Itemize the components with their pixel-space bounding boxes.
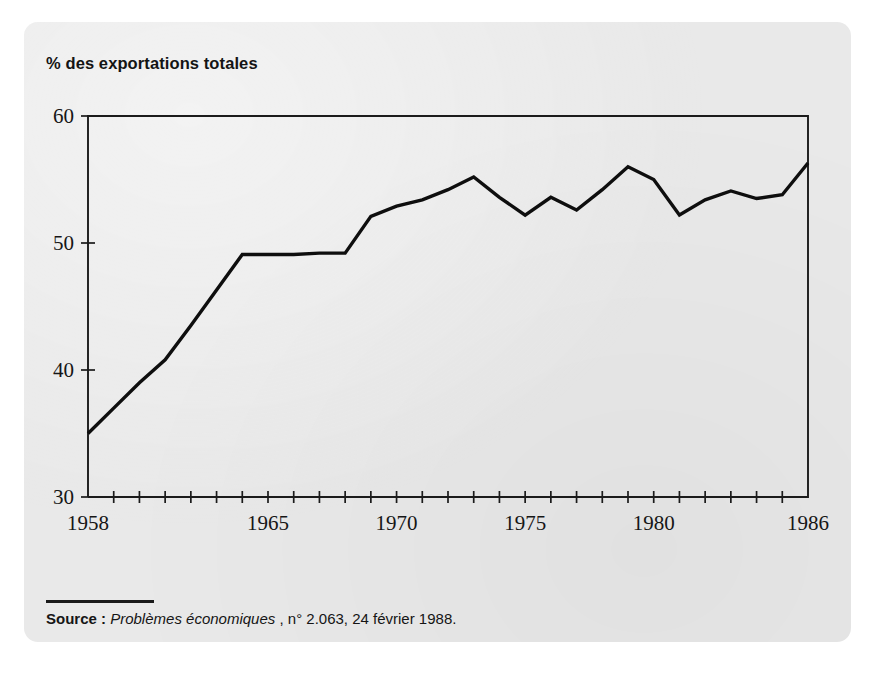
x-tick-label: 1975 [504, 511, 546, 535]
y-tick-label: 30 [53, 485, 74, 509]
x-tick-label: 1965 [247, 511, 289, 535]
source-publication: Problèmes économiques [110, 610, 275, 627]
source-note: Source : Problèmes économiques , n° 2.06… [46, 610, 456, 627]
y-tick-label: 50 [53, 231, 74, 255]
figure-page: % des exportations totales 30405060 1958… [0, 0, 875, 678]
x-tick-label: 1970 [376, 511, 418, 535]
x-tick-label: 1986 [787, 511, 829, 535]
data-series-line [88, 163, 808, 434]
source-divider [46, 600, 154, 603]
y-tick-label: 40 [53, 358, 74, 382]
source-label: Source : [46, 610, 106, 627]
source-reference: , n° 2.063, 24 février 1988. [279, 610, 456, 627]
plot-frame [88, 116, 808, 497]
y-tick-label: 60 [53, 104, 74, 128]
line-chart-plot: 30405060 195819651970197519801986 [0, 0, 875, 678]
x-tick-label: 1958 [67, 511, 109, 535]
x-tick-label: 1980 [633, 511, 675, 535]
